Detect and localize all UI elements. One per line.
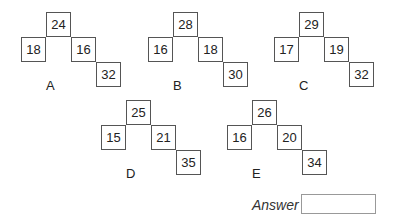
cell-right: 16	[71, 37, 96, 62]
puzzle-label: D	[126, 166, 135, 181]
puzzle-label: C	[299, 78, 308, 93]
cell-bottom: 32	[96, 62, 121, 87]
cell-bottom: 30	[223, 62, 248, 87]
puzzle-label: E	[252, 166, 261, 181]
cell-left: 16	[227, 125, 252, 150]
cell-left: 18	[21, 37, 46, 62]
cell-top: 26	[252, 100, 277, 125]
cell-left: 17	[274, 37, 299, 62]
cell-bottom: 32	[349, 62, 374, 87]
cell-left: 16	[148, 37, 173, 62]
cell-right: 20	[277, 125, 302, 150]
puzzle-d: 25 15 21 35 D	[101, 100, 211, 190]
cell-right: 18	[198, 37, 223, 62]
puzzle-a: 24 18 16 32 A	[21, 12, 131, 102]
puzzle-c: 29 17 19 32 C	[274, 12, 384, 102]
cell-right: 19	[324, 37, 349, 62]
cell-top: 29	[299, 12, 324, 37]
answer-label: Answer	[252, 197, 299, 213]
puzzle-e: 26 16 20 34 E	[227, 100, 337, 190]
puzzle-b: 28 16 18 30 B	[148, 12, 258, 102]
cell-left: 15	[101, 125, 126, 150]
puzzle-label: B	[173, 78, 182, 93]
cell-right: 21	[151, 125, 176, 150]
cell-top: 28	[173, 12, 198, 37]
cell-bottom: 34	[302, 150, 327, 175]
cell-top: 24	[46, 12, 71, 37]
answer-input[interactable]	[301, 194, 376, 214]
puzzle-label: A	[46, 78, 55, 93]
cell-top: 25	[126, 100, 151, 125]
cell-bottom: 35	[176, 150, 201, 175]
